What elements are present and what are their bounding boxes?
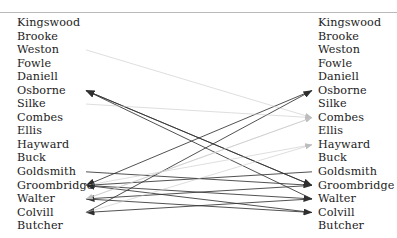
right-name-row: Silke — [318, 97, 395, 111]
right-name-row: Butcher — [318, 219, 395, 233]
right-name-row: Fowle — [318, 57, 395, 71]
left-name-row: Osborne — [17, 84, 94, 98]
edge-weak — [86, 145, 312, 186]
left-name-row: Combes — [17, 111, 94, 125]
right-name-row: Combes — [318, 111, 395, 125]
right-name-row: Daniell — [318, 70, 395, 84]
edge-weak — [86, 118, 312, 199]
left-name-row: Fowle — [17, 57, 94, 71]
diagram-canvas: KingswoodBrookeWestonFowleDaniellOsborne… — [0, 0, 397, 238]
right-name-row: Weston — [318, 43, 395, 57]
edge-strong — [86, 91, 312, 213]
left-name-row: Groombridge — [17, 179, 94, 193]
edges-group — [86, 50, 312, 213]
edge-strong — [86, 91, 312, 199]
right-name-column: KingswoodBrookeWestonFowleDaniellOsborne… — [318, 16, 395, 233]
right-name-row: Colvill — [318, 206, 395, 220]
right-name-row: Goldsmith — [318, 165, 395, 179]
edge-weak — [86, 145, 312, 213]
left-name-row: Weston — [17, 43, 94, 57]
left-name-row: Brooke — [17, 30, 94, 44]
edge-weak — [86, 104, 312, 118]
left-name-row: Ellis — [17, 124, 94, 138]
left-name-row: Walter — [17, 192, 94, 206]
right-name-row: Ellis — [318, 124, 395, 138]
left-name-row: Hayward — [17, 138, 94, 152]
edge-strong — [86, 185, 312, 212]
right-name-row: Hayward — [318, 138, 395, 152]
edge-weak — [86, 50, 312, 118]
right-name-row: Walter — [318, 192, 395, 206]
right-name-row: Groombridge — [318, 179, 395, 193]
left-name-column: KingswoodBrookeWestonFowleDaniellOsborne… — [17, 16, 94, 233]
left-name-row: Daniell — [17, 70, 94, 84]
left-name-row: Butcher — [17, 219, 94, 233]
right-name-row: Osborne — [318, 84, 395, 98]
right-name-row: Buck — [318, 151, 395, 165]
left-name-row: Kingswood — [17, 16, 94, 30]
left-name-row: Goldsmith — [17, 165, 94, 179]
right-name-row: Kingswood — [318, 16, 395, 30]
left-name-row: Colvill — [17, 206, 94, 220]
left-name-row: Silke — [17, 97, 94, 111]
left-name-row: Buck — [17, 151, 94, 165]
right-name-row: Brooke — [318, 30, 395, 44]
